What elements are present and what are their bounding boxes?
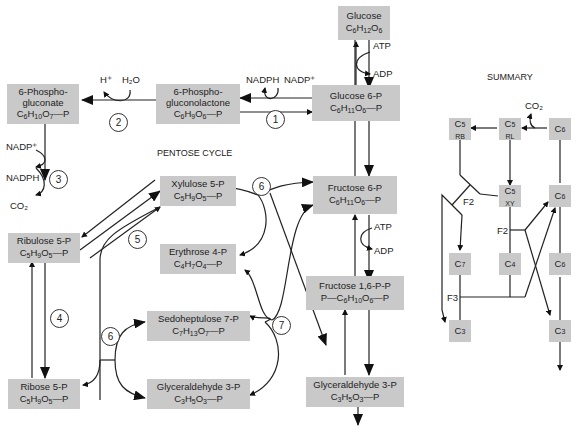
atp-label-2: ATP — [374, 221, 392, 232]
adp-label-2: ADP — [374, 245, 394, 256]
step-6-bottom-marker: 6 — [101, 327, 120, 346]
co2-label: CO₂ — [10, 200, 28, 211]
ribulose-5p-box: Ribulose 5-P C5H9O5—P — [8, 233, 80, 263]
ribose-5p-box: Ribose 5-P C5H9O5—P — [8, 379, 80, 409]
summary-c6-mid: C6 — [549, 185, 571, 207]
erythrose-4p-box: Erythrose 4-P C4H7O4—P — [160, 244, 236, 274]
step-5-marker: 5 — [128, 230, 147, 249]
glucose-6p-box: Glucose 6-P C6H11O6—P — [312, 85, 400, 121]
summary-co2-label: CO₂ — [525, 100, 543, 111]
summary-c4: C4 — [499, 253, 521, 275]
sedoheptulose-7p-box: Sedoheptulose 7-P C7H13O7—P — [147, 311, 250, 341]
summary-c5-rl: C5RL — [499, 118, 521, 140]
phosphogluconate-box: 6-Phospho- gluconate C6H10O7—P — [7, 84, 79, 124]
summary-c3-left: C3 — [449, 320, 471, 342]
glucose-formula: C6H12O6 — [346, 22, 383, 37]
step-4-marker: 4 — [50, 309, 69, 328]
summary-c6-top: C6 — [549, 118, 571, 140]
step-6-top-marker: 6 — [252, 177, 271, 196]
pentose-cycle-title: PENTOSE CYCLE — [157, 148, 232, 158]
glyceraldehyde-3p-right-box: Glyceraldehyde 3-P C3H5O3—P — [306, 377, 404, 407]
step-1-marker: 1 — [266, 110, 285, 129]
glyceraldehyde-3p-left-box: Glyceraldehyde 3-P C3H5O3—P — [147, 379, 250, 409]
summary-f3: F3 — [447, 292, 458, 303]
step-7-marker: 7 — [272, 316, 291, 335]
summary-c7: C7 — [449, 253, 471, 275]
summary-f2-mid: F2 — [497, 225, 508, 236]
fructose-6p-box: Fructose 6-P C6H11O6—P — [313, 176, 397, 214]
nadph-label-1: NADPH — [246, 74, 279, 85]
pathway-arrows — [0, 0, 579, 433]
nadph-label-3: NADPH — [6, 172, 39, 183]
glucose-box: Glucose C6H12O6 — [338, 6, 390, 40]
summary-c3-right: C3 — [549, 320, 571, 342]
nadp-label-1: NADP⁺ — [284, 74, 315, 85]
step-2-marker: 2 — [109, 113, 128, 132]
fructose-16bp-box: Fructose 1,6-P-P P—C6H10O6—P — [306, 276, 404, 310]
step-3-marker: 3 — [49, 170, 68, 189]
adp-label-1: ADP — [373, 68, 393, 79]
phosphogluconolactone-box: 6-Phospho- gluconolactone C6H9O6—P — [156, 84, 240, 124]
summary-f2-left: F2 — [463, 196, 474, 207]
summary-title: SUMMARY — [487, 72, 533, 82]
nadp-label-3: NADP⁺ — [6, 141, 37, 152]
xylulose-5p-box: Xylulose 5-P C5H9O5—P — [160, 176, 236, 206]
hplus-label: H⁺ — [100, 74, 112, 85]
summary-c6-low: C6 — [549, 253, 571, 275]
h2o-label: H₂O — [122, 74, 140, 85]
summary-c5-rb: C5RB — [449, 118, 471, 140]
summary-c5-xy: C5XY — [499, 185, 521, 207]
atp-label-1: ATP — [373, 40, 391, 51]
